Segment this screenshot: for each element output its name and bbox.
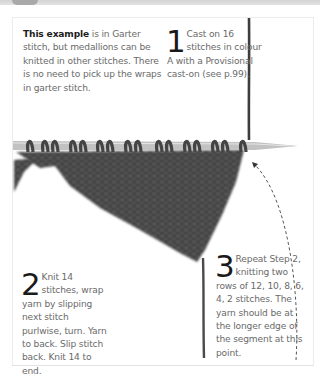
note-bold: This example	[23, 29, 89, 39]
step-3: 3 Repeat Step 2, knitting two rows of 12…	[216, 253, 306, 360]
yarn-bottom-strand	[203, 258, 204, 358]
step-number: 2	[21, 272, 41, 296]
step-2: 2 Knit 14 stitches, wrap yarn by slippin…	[22, 271, 107, 378]
step-number: 3	[215, 254, 235, 278]
step-1: 1 Cast on 16 stitches in colour A with a…	[167, 28, 270, 82]
step-number: 1	[166, 29, 186, 53]
knitted-triangle	[16, 150, 244, 262]
example-note: This example is in Garter stitch, but me…	[23, 28, 163, 95]
